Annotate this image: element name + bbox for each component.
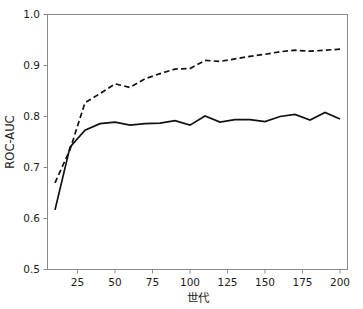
x-tick-label: 75	[146, 276, 159, 288]
y-tick-label: 0.8	[23, 110, 40, 122]
y-axis-title: ROC-AUC	[3, 115, 17, 168]
x-tick-label: 150	[255, 276, 275, 288]
y-tick-label: 0.6	[23, 212, 40, 224]
x-tick-label: 50	[108, 276, 121, 288]
x-axis-title: 世代	[187, 291, 210, 305]
x-tick-label: 100	[180, 276, 200, 288]
y-tick-label: 0.9	[23, 59, 40, 71]
chart-figure: 1.0 0.9 0.8 0.7 0.6 0.5 2550751001251501…	[0, 0, 363, 309]
y-tick-label: 0.5	[23, 263, 40, 275]
x-tick-label: 125	[217, 276, 237, 288]
x-tick-label: 175	[292, 276, 312, 288]
roc-auc-line-chart: 1.0 0.9 0.8 0.7 0.6 0.5 2550751001251501…	[0, 0, 363, 309]
x-tick-label: 25	[71, 276, 84, 288]
y-tick-label: 1.0	[23, 8, 40, 20]
x-tick-label: 200	[330, 276, 350, 288]
y-tick-label: 0.7	[23, 161, 40, 173]
figure-background	[0, 0, 363, 309]
